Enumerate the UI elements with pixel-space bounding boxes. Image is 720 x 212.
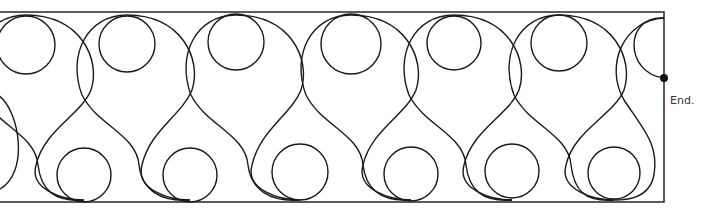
swirl-line bbox=[26, 15, 93, 200]
swirl-line bbox=[77, 15, 190, 200]
top-circle bbox=[99, 16, 155, 72]
top-circle bbox=[321, 14, 381, 74]
swirl-line bbox=[454, 15, 521, 200]
bottom-circle bbox=[57, 148, 111, 202]
end-point-marker bbox=[660, 74, 668, 82]
bottom-circle bbox=[163, 148, 217, 202]
bottom-circle bbox=[485, 144, 539, 198]
swirl-line bbox=[404, 15, 512, 200]
bottom-circle bbox=[588, 147, 640, 199]
swirl-line bbox=[301, 15, 411, 200]
top-circle bbox=[427, 16, 481, 70]
top-circle bbox=[531, 15, 587, 71]
top-circle bbox=[208, 14, 264, 70]
swirl-line bbox=[127, 15, 194, 200]
swirl-line bbox=[559, 15, 626, 200]
swirl-line bbox=[509, 15, 614, 200]
swirl-line bbox=[0, 15, 84, 200]
bottom-circle bbox=[272, 144, 328, 200]
quilting-pattern-diagram bbox=[0, 0, 720, 212]
top-circle bbox=[0, 16, 55, 74]
end-label: End. bbox=[670, 94, 694, 107]
final-swirl bbox=[614, 18, 664, 200]
left-partial-arc bbox=[0, 95, 18, 190]
swirl-line bbox=[186, 15, 300, 200]
swirl-line bbox=[236, 15, 303, 200]
pattern-motifs bbox=[0, 14, 664, 202]
bottom-circle bbox=[384, 147, 438, 201]
